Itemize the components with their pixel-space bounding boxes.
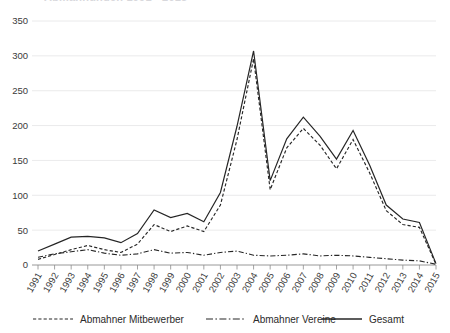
x-axis-tick-label: 2005 xyxy=(256,271,276,295)
series-line-solid xyxy=(38,51,436,264)
series-group xyxy=(38,51,436,264)
x-axis-tick-label: 2015 xyxy=(422,271,442,295)
x-axis-tick-label: 2014 xyxy=(405,271,425,295)
x-axis-labels-group: 1991199219931994199519961997199819992000… xyxy=(24,271,442,295)
x-axis-ticks-group xyxy=(38,265,436,270)
chart-title: Abmahnungen 1991 - 2015 xyxy=(44,0,374,1)
line-chart: 050100150200250300350 199119921993199419… xyxy=(0,0,450,333)
y-axis-tick-label: 0 xyxy=(23,259,28,270)
x-axis-tick-label: 2006 xyxy=(273,271,293,295)
y-axis-tick-label: 50 xyxy=(17,225,28,236)
legend-label-gesamt: Gesamt xyxy=(369,314,404,325)
y-axis-tick-label: 100 xyxy=(12,190,28,201)
x-axis-tick-label: 1997 xyxy=(123,271,143,295)
x-axis-tick-label: 1996 xyxy=(107,271,127,295)
legend-label-mitbewerber: Abmahner Mitbewerber xyxy=(80,314,185,325)
chart-legend: Abmahner MitbewerberAbmahner VereineGesa… xyxy=(33,314,404,325)
y-axis-tick-label: 200 xyxy=(12,120,28,131)
x-axis-tick-label: 2000 xyxy=(173,271,193,295)
y-axis-tick-label: 350 xyxy=(12,15,28,26)
x-axis-tick-label: 2007 xyxy=(289,271,309,295)
y-axis-tick-label: 250 xyxy=(12,85,28,96)
x-axis-tick-label: 1998 xyxy=(140,271,160,295)
y-axis-labels-group: 050100150200250300350 xyxy=(12,15,28,270)
x-axis-tick-label: 1994 xyxy=(74,271,94,295)
x-axis-tick-label: 2004 xyxy=(239,271,259,295)
x-axis-tick-label: 1993 xyxy=(57,271,77,295)
y-axis-tick-label: 300 xyxy=(12,50,28,61)
x-axis-tick-label: 1995 xyxy=(90,271,110,295)
x-axis-tick-label: 2010 xyxy=(339,271,359,295)
y-axis-tick-label: 150 xyxy=(12,155,28,166)
x-axis-tick-label: 1999 xyxy=(157,271,177,295)
x-axis-tick-label: 2012 xyxy=(372,271,392,295)
gridlines-group xyxy=(32,21,436,265)
series-line-dash-dot xyxy=(38,250,436,265)
x-axis-tick-label: 2008 xyxy=(306,271,326,295)
x-axis-tick-label: 2009 xyxy=(322,271,342,295)
x-axis-tick-label: 2003 xyxy=(223,271,243,295)
x-axis-tick-label: 2013 xyxy=(389,271,409,295)
x-axis-tick-label: 2001 xyxy=(190,271,210,295)
x-axis-tick-label: 2002 xyxy=(206,271,226,295)
x-axis-tick-label: 1991 xyxy=(24,271,44,295)
x-axis-tick-label: 1992 xyxy=(40,271,60,295)
chart-container: Abmahnungen 1991 - 2015 0501001502002503… xyxy=(0,0,450,333)
series-line-dashed xyxy=(38,59,436,265)
